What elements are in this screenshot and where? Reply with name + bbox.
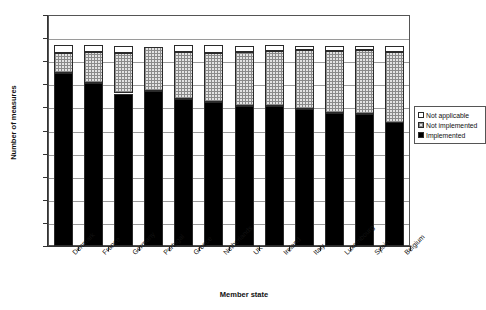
x-axis-tick-label: Germany [131, 251, 136, 256]
legend-swatch-white [418, 112, 424, 118]
bar-segment-implemented [385, 122, 404, 246]
x-axis-tick-label: France [101, 251, 106, 256]
y-axis-tick [43, 107, 47, 108]
bar-segment-implemented [265, 106, 284, 246]
bar-segment-not-applicable [355, 46, 374, 50]
bar-segment-not-implemented [84, 52, 103, 83]
chart-legend: Not applicableNot implementedImplemented [414, 106, 486, 144]
bar-segment-implemented [84, 83, 103, 246]
bar-stack [265, 15, 284, 246]
legend-swatch-black [418, 132, 424, 138]
x-axis-tick-label: UK [252, 251, 257, 256]
y-axis-tick [43, 15, 47, 16]
x-axis-tick-label: Spain [373, 251, 378, 256]
y-axis-tick [43, 154, 47, 155]
bar-segment-not-implemented [325, 51, 344, 113]
x-axis-tick-label: Italy [312, 251, 317, 256]
y-axis-tick [43, 200, 47, 201]
legend-label: Not applicable [426, 112, 469, 119]
bar-stack [355, 15, 374, 246]
bar-segment-not-implemented [235, 52, 254, 106]
bar-segment-not-applicable [114, 46, 133, 53]
bar-segment-not-implemented [295, 50, 314, 109]
bar-segment-not-applicable [174, 45, 193, 52]
legend-item: Implemented [418, 130, 483, 140]
bar-segment-not-applicable [385, 46, 404, 52]
y-axis-tick [43, 131, 47, 132]
legend-item: Not implemented [418, 120, 483, 130]
y-axis-tick [43, 84, 47, 85]
x-axis-title-wrap: Member state [0, 290, 480, 299]
x-axis-tick-label: Denmark [71, 251, 76, 256]
bar-stack [114, 15, 133, 246]
y-axis-tick [43, 223, 47, 224]
bar-stack [385, 15, 404, 246]
bar-segment-implemented [325, 113, 344, 246]
y-axis-tick [43, 177, 47, 178]
bar-segment-not-implemented [265, 51, 284, 106]
y-axis-tick [43, 61, 47, 62]
bar-segment-not-applicable [265, 45, 284, 51]
y-axis-title: Number of measures [9, 63, 18, 183]
legend-label: Not implemented [426, 122, 477, 129]
bar-stack [54, 15, 73, 246]
bar-segment-not-implemented [174, 52, 193, 99]
bar-segment-not-applicable [295, 46, 314, 50]
x-axis-tick-labels: DenmarkFranceGermanyPortugalGreeceNether… [0, 246, 480, 296]
bar-segment-not-applicable [325, 46, 344, 51]
bar-segment-implemented [295, 109, 314, 246]
bar-segment-not-implemented [54, 53, 73, 73]
x-axis-title: Member state [220, 290, 268, 299]
bar-segment-not-applicable [84, 45, 103, 52]
bar-segment-not-applicable [54, 45, 73, 53]
bar-segment-not-implemented [204, 53, 223, 102]
bar-stack [295, 15, 314, 246]
bar-segment-not-implemented [144, 47, 163, 91]
bar-stack [144, 15, 163, 246]
bar-segment-not-implemented [355, 50, 374, 115]
y-axis-tick [43, 38, 47, 39]
legend-item: Not applicable [418, 110, 483, 120]
bar-segment-not-applicable [235, 46, 254, 52]
bar-segment-implemented [114, 94, 133, 247]
bar-segment-not-applicable [204, 45, 223, 53]
legend-swatch-dotted [418, 122, 424, 128]
x-axis-tick-label: Belgium [403, 251, 408, 256]
x-axis-tick-label: Netherlands [222, 251, 227, 256]
bar-stack [235, 15, 254, 246]
bar-stack [204, 15, 223, 246]
bar-stack [84, 15, 103, 246]
x-axis-tick-label: Portugal [162, 251, 167, 256]
bar-segment-implemented [174, 99, 193, 246]
bar-segment-implemented [204, 102, 223, 246]
x-axis-tick-label: Ireland [282, 251, 287, 256]
bar-series-layer [48, 15, 410, 246]
legend-label: Implemented [426, 132, 465, 139]
bar-segment-not-implemented [114, 53, 133, 93]
bar-segment-implemented [54, 73, 73, 246]
bar-stack [174, 15, 193, 246]
bar-segment-not-implemented [385, 52, 404, 123]
bar-stack [325, 15, 344, 246]
x-axis-tick-label: Greece [192, 251, 197, 256]
x-axis-tick-label: Luxembourg [343, 251, 348, 256]
bar-segment-implemented [144, 91, 163, 246]
